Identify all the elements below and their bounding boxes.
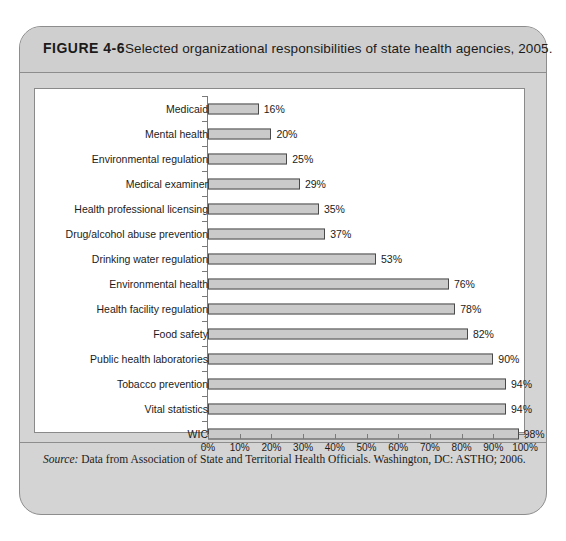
x-axis-tick (303, 434, 304, 439)
bar (208, 253, 376, 264)
y-axis-tick (202, 221, 207, 222)
chart-plot-area: Medicaid16%Mental health20%Environmental… (34, 88, 525, 433)
figure-frame: FIGURE 4-6Selected organizational respon… (19, 26, 547, 515)
y-axis-tick (202, 271, 207, 272)
bar-value-label: 20% (276, 128, 297, 140)
figure-header-band: FIGURE 4-6Selected organizational respon… (20, 27, 546, 73)
bar-value-label: 16% (264, 103, 285, 115)
bar-wrapper: WIC98% (208, 428, 519, 439)
bar (208, 353, 493, 364)
category-label: Health professional licensing (74, 203, 208, 215)
bar (208, 303, 455, 314)
category-label: Drug/alcohol abuse prevention (66, 228, 208, 240)
x-axis-tick (208, 434, 209, 439)
bar-wrapper: Medical examiner29% (208, 178, 300, 189)
category-label: Tobacco prevention (117, 378, 208, 390)
bar (208, 228, 325, 239)
y-axis-tick (202, 346, 207, 347)
x-axis-tick (398, 434, 399, 439)
bar-wrapper: Health professional licensing35% (208, 203, 319, 214)
y-axis-tick (202, 171, 207, 172)
bar (208, 128, 271, 139)
x-axis-tick (525, 434, 526, 439)
bar (208, 178, 300, 189)
bar-value-label: 37% (330, 228, 351, 240)
bar-row: Mental health20% (35, 121, 524, 146)
x-axis-tick (367, 434, 368, 439)
bar-wrapper: Environmental health76% (208, 278, 449, 289)
bar (208, 403, 506, 414)
source-prefix: Source: (43, 453, 78, 465)
bar (208, 278, 449, 289)
x-axis-tick (240, 434, 241, 439)
y-axis-tick (202, 196, 207, 197)
bar (208, 428, 519, 439)
x-axis-tick (271, 434, 272, 439)
y-axis-tick (202, 246, 207, 247)
bar-row: Tobacco prevention94% (35, 371, 524, 396)
category-label: Public health laboratories (90, 353, 208, 365)
y-axis-tick (202, 321, 207, 322)
category-label: Drinking water regulation (92, 253, 208, 265)
category-label: Food safety (153, 328, 208, 340)
bar (208, 378, 506, 389)
bar-wrapper: Drug/alcohol abuse prevention37% (208, 228, 325, 239)
category-label: Vital statistics (145, 403, 208, 415)
bar-value-label: 90% (498, 353, 519, 365)
x-axis-tick (430, 434, 431, 439)
category-label: Environmental health (109, 278, 208, 290)
bar-row: Environmental regulation25% (35, 146, 524, 171)
bar-row: Drinking water regulation53% (35, 246, 524, 271)
bar-wrapper: Mental health20% (208, 128, 271, 139)
figure-title: Selected organizational responsibilities… (125, 41, 552, 56)
x-axis-tick (335, 434, 336, 439)
x-axis-tick (462, 434, 463, 439)
bar-wrapper: Drinking water regulation53% (208, 253, 376, 264)
bar-row: Food safety82% (35, 321, 524, 346)
figure-number: FIGURE 4-6 (43, 40, 125, 56)
bar-value-label: 35% (324, 203, 345, 215)
y-axis-tick (202, 146, 207, 147)
bar-value-label: 29% (305, 178, 326, 190)
bar-row: Medical examiner29% (35, 171, 524, 196)
bar-value-label: 25% (292, 153, 313, 165)
category-label: Mental health (145, 128, 208, 140)
y-axis-tick (202, 371, 207, 372)
bar-wrapper: Health facility regulation78% (208, 303, 455, 314)
figure-caption: FIGURE 4-6Selected organizational respon… (43, 40, 553, 56)
bar-row: Health facility regulation78% (35, 296, 524, 321)
y-axis-tick (202, 121, 207, 122)
bar-wrapper: Food safety82% (208, 328, 468, 339)
y-axis-tick (202, 396, 207, 397)
bar-value-label: 78% (460, 303, 481, 315)
category-label: Health facility regulation (97, 303, 208, 315)
category-label: Medical examiner (126, 178, 208, 190)
bar-wrapper: Medicaid16% (208, 103, 259, 114)
bar-wrapper: Environmental regulation25% (208, 153, 287, 164)
bar (208, 153, 287, 164)
bar-row: Drug/alcohol abuse prevention37% (35, 221, 524, 246)
source-band: Source: Data from Association of State a… (20, 442, 546, 514)
bar-wrapper: Tobacco prevention94% (208, 378, 506, 389)
category-label: WIC (188, 428, 208, 440)
bar-value-label: 76% (454, 278, 475, 290)
bar (208, 203, 319, 214)
y-axis-tick (202, 296, 207, 297)
bar-value-label: 53% (381, 253, 402, 265)
bar-row: Environmental health76% (35, 271, 524, 296)
category-label: Medicaid (166, 103, 208, 115)
bar-value-label: 94% (511, 378, 532, 390)
bar-row: Medicaid16% (35, 96, 524, 121)
y-axis-tick (202, 96, 207, 97)
bar-row: Public health laboratories90% (35, 346, 524, 371)
category-label: Environmental regulation (92, 153, 208, 165)
bar-value-label: 94% (511, 403, 532, 415)
source-text: Data from Association of State and Terri… (78, 453, 525, 465)
bar-value-label: 82% (473, 328, 494, 340)
x-axis-tick (493, 434, 494, 439)
bar (208, 103, 259, 114)
bar-row: Vital statistics94% (35, 396, 524, 421)
bar-wrapper: Public health laboratories90% (208, 353, 493, 364)
bar-row: Health professional licensing35% (35, 196, 524, 221)
bar-chart: Medicaid16%Mental health20%Environmental… (35, 89, 524, 432)
